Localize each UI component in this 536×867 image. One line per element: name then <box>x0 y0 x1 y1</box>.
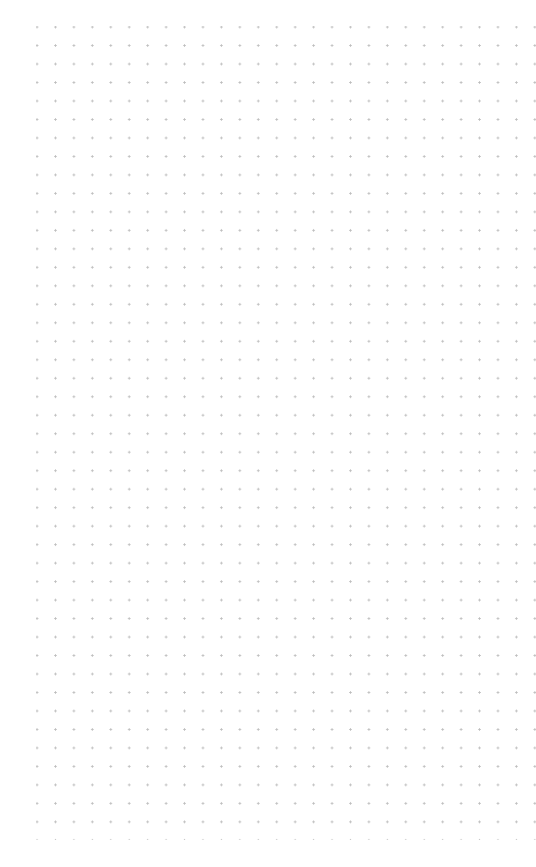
dot-grid-background <box>36 26 536 840</box>
